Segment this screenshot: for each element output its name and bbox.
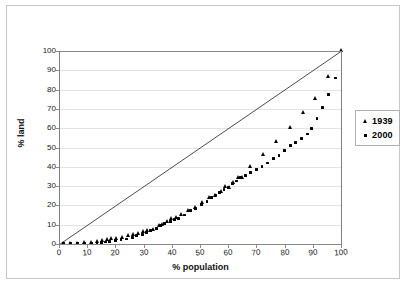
x-tick-mark bbox=[200, 245, 201, 248]
x-tick-label: 100 bbox=[329, 247, 354, 258]
x-tick-label: 60 bbox=[216, 247, 241, 258]
square-icon bbox=[361, 134, 369, 137]
triangle-icon bbox=[361, 119, 369, 123]
x-tick-label: 20 bbox=[103, 247, 128, 258]
x-tick-label: 50 bbox=[188, 247, 213, 258]
legend-label: 1939 bbox=[372, 116, 393, 126]
x-tick-mark bbox=[285, 245, 286, 248]
y-axis-title: % land bbox=[16, 103, 26, 163]
x-tick-label: 70 bbox=[244, 247, 269, 258]
x-tick-label: 30 bbox=[131, 247, 156, 258]
x-tick-mark bbox=[115, 245, 116, 248]
legend-item-1939[interactable]: 1939 bbox=[361, 114, 399, 128]
x-tick-mark bbox=[341, 245, 342, 248]
x-tick-label: 40 bbox=[159, 247, 184, 258]
x-tick-label: 90 bbox=[300, 247, 325, 258]
x-tick-mark bbox=[87, 245, 88, 248]
legend: 1939 2000 bbox=[355, 110, 400, 146]
lorenz-curve-chart: 0102030405060708090100 01020304050607080… bbox=[0, 0, 407, 286]
x-tick-label: 0 bbox=[47, 247, 72, 258]
x-tick-mark bbox=[313, 245, 314, 248]
x-tick-mark bbox=[228, 245, 229, 248]
x-axis-tick-labels: 0102030405060708090100 bbox=[0, 0, 407, 286]
x-tick-label: 80 bbox=[272, 247, 297, 258]
x-tick-label: 10 bbox=[75, 247, 100, 258]
x-tick-mark bbox=[144, 245, 145, 248]
x-axis-title: % population bbox=[59, 262, 342, 272]
x-tick-mark bbox=[59, 245, 60, 248]
legend-item-2000[interactable]: 2000 bbox=[361, 128, 399, 142]
x-tick-mark bbox=[256, 245, 257, 248]
legend-label: 2000 bbox=[372, 130, 393, 140]
x-tick-mark bbox=[172, 245, 173, 248]
